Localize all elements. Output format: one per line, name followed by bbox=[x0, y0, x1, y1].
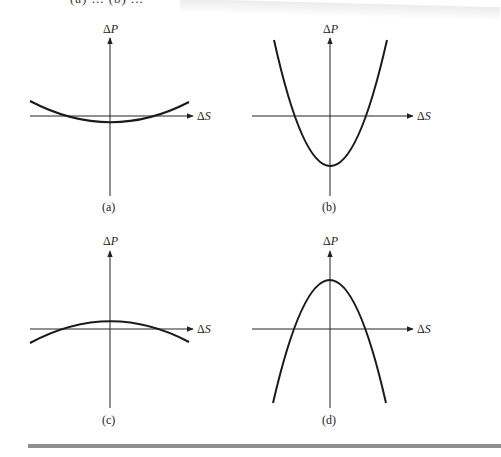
figure: ΔP ΔS (a) ΔP ΔS (b) ΔP ΔS (c) ΔP ΔS (d) bbox=[0, 0, 501, 457]
panel-b: ΔP ΔS (b) bbox=[252, 22, 431, 214]
panel-c: ΔP ΔS (c) bbox=[30, 234, 211, 427]
panel-label: (a) bbox=[102, 200, 115, 214]
panel-label: (c) bbox=[102, 413, 115, 427]
y-axis-label: ΔP bbox=[103, 22, 119, 36]
header-fragment: (a) ... (b) ... bbox=[70, 0, 144, 6]
x-axis-label: ΔS bbox=[197, 109, 211, 123]
panel-a: ΔP ΔS (a) bbox=[30, 22, 211, 214]
x-axis-label: ΔS bbox=[417, 109, 431, 123]
bottom-rule bbox=[28, 444, 501, 448]
x-axis-label: ΔS bbox=[417, 322, 431, 336]
y-axis-label: ΔP bbox=[323, 234, 339, 248]
y-axis-label: ΔP bbox=[103, 234, 119, 248]
panel-d: ΔP ΔS (d) bbox=[252, 234, 431, 427]
panel-label: (d) bbox=[322, 413, 336, 427]
panel-label: (b) bbox=[322, 200, 336, 214]
y-axis-label: ΔP bbox=[323, 22, 339, 36]
cropped-header-text: (a) ... (b) ... bbox=[70, 0, 190, 6]
x-axis-label: ΔS bbox=[197, 322, 211, 336]
